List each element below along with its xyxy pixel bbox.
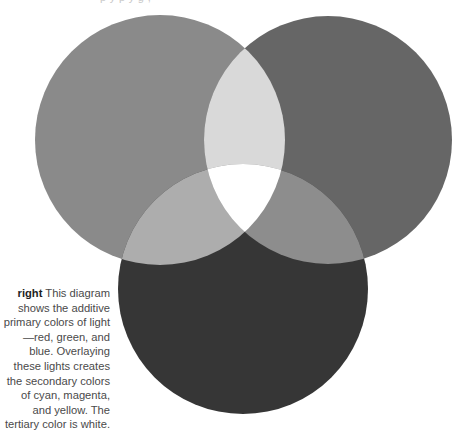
diagram-caption: right This diagram shows the additive pr…: [0, 286, 110, 432]
caption-lead: right: [18, 287, 43, 299]
caption-body: This diagram shows the additive primary …: [4, 287, 110, 430]
